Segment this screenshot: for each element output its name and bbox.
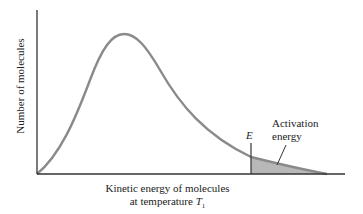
x-label-text: at temperature: [130, 195, 196, 207]
y-axis-label: Number of molecules: [14, 36, 26, 136]
x-label-sub: 1: [202, 202, 206, 210]
x-label-line1: Kinetic energy of molecules: [70, 182, 265, 195]
e-label: E: [246, 129, 253, 141]
energy-distribution-diagram: Number of molecules E Activation energy …: [0, 0, 363, 214]
x-axis-label: Kinetic energy of molecules at temperatu…: [70, 182, 265, 213]
activation-line1: Activation: [272, 117, 318, 130]
activation-line2: energy: [272, 130, 318, 143]
activation-energy-label: Activation energy: [272, 117, 318, 143]
x-label-line2: at temperature T1: [70, 195, 265, 213]
distribution-curve: [37, 34, 327, 174]
activation-pointer: [277, 145, 286, 165]
